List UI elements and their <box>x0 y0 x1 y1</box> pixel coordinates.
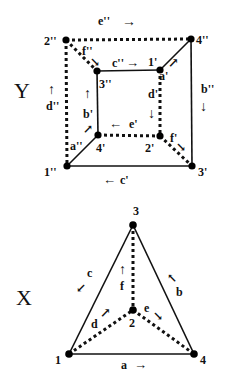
arrow-up-icon: ↑ <box>84 86 91 101</box>
edge-label-e2: e'' <box>98 14 110 28</box>
node-label-1: 1 <box>55 353 61 367</box>
arrow-up-right-icon: ↗ <box>100 305 111 320</box>
arrow-up-right-icon: ↗ <box>168 55 179 70</box>
node-label-4pp: 4'' <box>196 33 209 47</box>
node-3p <box>188 162 195 169</box>
edge-label-d1: d' <box>148 87 158 101</box>
arrow-left-icon: ← <box>103 172 116 187</box>
node-label-3p: 3' <box>198 165 207 179</box>
arrow-right-icon: → <box>134 357 147 372</box>
edge-b <box>133 225 194 354</box>
edge-label-a1: a' <box>159 69 168 83</box>
node-label-3: 3 <box>133 204 139 218</box>
edge-label-e: e <box>144 301 150 315</box>
edge-label-b2: b'' <box>201 82 214 96</box>
edge-label-f: f <box>120 279 125 293</box>
edge-e <box>133 310 194 354</box>
graph-x: X 3 2 1 4 c ↙ ↖ b a → ↑ f d ↗ e ↘ <box>16 204 206 372</box>
node-4 <box>190 350 198 358</box>
edge-label-a: a <box>121 358 127 372</box>
arrow-right-icon: → <box>122 14 136 29</box>
edge-label-c2: c'' <box>112 56 124 70</box>
diagram-canvas: Y 2'' 4'' 3'' 1' 4' 2' 1'' 3' e'' → <box>0 0 227 384</box>
arrow-right-icon: → <box>126 55 139 70</box>
node-4p <box>94 131 101 138</box>
arrow-up-left-icon: ↖ <box>167 271 177 285</box>
arrow-up-right-icon: ↗ <box>83 122 93 136</box>
node-2pp <box>62 36 69 43</box>
edge-label-d2: d'' <box>46 99 59 113</box>
arrow-up-icon: ↑ <box>119 262 126 277</box>
arrow-down-icon: ↓ <box>148 106 155 121</box>
node-label-1p: 1' <box>148 55 157 69</box>
arrow-down-right-icon: ↘ <box>176 140 186 154</box>
edge-b2 <box>191 39 192 166</box>
node-label-4: 4 <box>200 353 206 367</box>
node-label-2pp: 2'' <box>44 34 57 48</box>
node-3 <box>129 221 137 229</box>
edge-c2 <box>97 70 160 71</box>
edge-label-b: b <box>176 285 183 299</box>
edge-label-a2: a'' <box>70 139 83 153</box>
edge-label-c1: c' <box>120 173 129 187</box>
edge-e2 <box>66 39 191 40</box>
node-2p <box>156 132 163 139</box>
node-2 <box>129 306 137 314</box>
node-1pp <box>63 162 70 169</box>
node-label-2: 2 <box>129 316 135 330</box>
arrow-left-icon: ← <box>109 116 122 131</box>
node-4pp <box>187 35 194 42</box>
node-label-3pp: 3'' <box>99 77 112 91</box>
edge-label-c: c <box>87 266 93 280</box>
arrow-down-right-icon: ↘ <box>90 55 100 69</box>
graph-title-x: X <box>16 285 32 310</box>
edge-label-d: d <box>91 317 98 331</box>
node-1 <box>65 350 73 358</box>
edge-e1 <box>98 135 160 136</box>
arrow-down-icon: ↓ <box>200 99 207 114</box>
edge-d2 <box>66 40 67 166</box>
arrow-down-left-icon: ↙ <box>76 281 86 295</box>
node-label-1pp: 1'' <box>44 165 57 179</box>
graph-title-y: Y <box>14 78 30 103</box>
edge-label-e1: e' <box>129 117 138 131</box>
arrow-up-icon: ↑ <box>48 82 55 97</box>
node-label-4p: 4' <box>96 141 105 155</box>
arrow-down-right-icon: ↘ <box>153 309 163 323</box>
graph-y: Y 2'' 4'' 3'' 1' 4' 2' 1'' 3' e'' → <box>14 14 214 187</box>
node-label-2p: 2' <box>145 141 154 155</box>
edge-b1 <box>97 71 98 135</box>
edge-label-b1: b' <box>83 107 93 121</box>
